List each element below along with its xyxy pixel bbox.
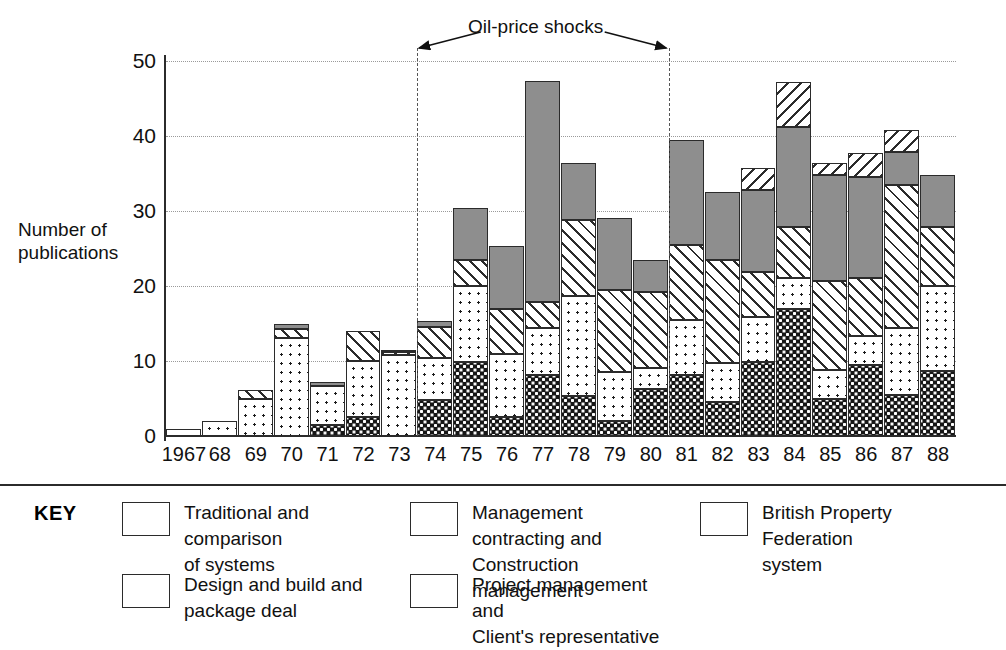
shock-line-right <box>669 48 670 436</box>
legend-swatch-solid-grey <box>410 574 458 608</box>
bar-segment-traditional <box>812 399 847 437</box>
bar-71 <box>310 61 345 436</box>
bar-segment-design <box>346 361 381 417</box>
y-tick-0: 0 <box>110 425 156 446</box>
bar-segment-design <box>453 286 488 362</box>
bar-segment-project <box>561 163 596 220</box>
bar-70 <box>274 61 309 436</box>
bar-segment-design <box>884 328 919 395</box>
bar-segment-design <box>381 355 416 436</box>
bar-segment-design <box>848 336 883 365</box>
bar-segment-project <box>920 175 955 227</box>
bar-segment-mgmt <box>525 302 560 328</box>
bar-segment-design <box>920 286 955 371</box>
bar-segment-mgmt <box>597 290 632 373</box>
bar-1967 <box>166 61 201 436</box>
bar-83 <box>741 61 776 436</box>
bar-72 <box>346 61 381 436</box>
bar-segment-mgmt <box>381 352 416 355</box>
bar-segment-project <box>525 81 560 302</box>
y-axis-title: Number of publications <box>18 218 158 264</box>
bar-84 <box>776 61 811 436</box>
bar-80 <box>633 61 668 436</box>
bar-87 <box>884 61 919 436</box>
bar-segment-project <box>417 321 452 327</box>
bar-segment-mgmt <box>238 390 273 399</box>
bar-segment-bpf <box>741 168 776 190</box>
bar-segment-mgmt <box>741 272 776 317</box>
bar-segment-traditional <box>920 371 955 436</box>
bar-segment-traditional <box>741 362 776 436</box>
bar-segment-traditional <box>884 395 919 436</box>
bar-segment-traditional <box>669 375 704 437</box>
bar-segment-traditional <box>346 417 381 436</box>
bar-69 <box>238 61 273 436</box>
bar-segment-project <box>741 190 776 272</box>
bar-81 <box>669 61 704 436</box>
bar-86 <box>848 61 883 436</box>
bar-segment-bpf <box>884 130 919 152</box>
bar-segment-design <box>202 421 237 436</box>
bar-segment-mgmt <box>417 327 452 359</box>
bar-segment-design <box>633 368 668 389</box>
bar-segment-bpf <box>776 82 811 127</box>
bar-segment-project <box>489 246 524 309</box>
bar-segment-design <box>166 429 201 437</box>
bar-segment-project <box>310 382 345 386</box>
bar-segment-design <box>561 296 596 397</box>
bar-segment-mgmt <box>561 220 596 296</box>
bar-segment-mgmt <box>920 227 955 286</box>
bar-segment-design <box>776 278 811 309</box>
bar-segment-project <box>884 152 919 185</box>
legend-swatch-light-dotted <box>122 574 170 608</box>
bar-segment-project <box>669 140 704 245</box>
bar-segment-project <box>633 260 668 292</box>
y-tick-40: 40 <box>110 125 156 146</box>
bar-segment-traditional <box>776 309 811 437</box>
bar-segment-mgmt <box>274 329 309 338</box>
bar-segment-design <box>669 320 704 375</box>
bar-segment-traditional <box>561 396 596 436</box>
bar-segment-project <box>597 218 632 290</box>
bar-segment-mgmt <box>848 278 883 337</box>
plot-bars <box>166 61 956 436</box>
legend-swatch-dark-dotted <box>122 502 170 536</box>
bar-segment-project <box>274 324 309 329</box>
oil-price-shocks-arrows <box>407 8 678 54</box>
bar-segment-traditional <box>417 400 452 436</box>
bar-segment-mgmt <box>633 292 668 368</box>
bar-segment-traditional <box>848 365 883 436</box>
bar-segment-mgmt <box>705 260 740 364</box>
bar-segment-design <box>417 358 452 400</box>
bar-segment-traditional <box>633 389 668 436</box>
bar-segment-traditional <box>489 417 524 436</box>
bar-segment-design <box>705 363 740 401</box>
y-tick-20: 20 <box>110 275 156 296</box>
bar-segment-project <box>812 175 847 281</box>
bar-segment-design <box>310 386 345 425</box>
legend-label: Project management and Client's represen… <box>472 572 680 650</box>
bar-79 <box>597 61 632 436</box>
chart-area: Number of publications 01020304050 19676… <box>0 0 1006 480</box>
bar-segment-project <box>381 350 416 352</box>
bar-segment-design <box>741 317 776 362</box>
bar-77 <box>525 61 560 436</box>
bar-segment-design <box>489 354 524 418</box>
legend-label: Traditional and comparison of systems <box>184 500 392 578</box>
bar-segment-design <box>274 338 309 436</box>
legend-label: British Property Federation system <box>762 500 970 578</box>
bar-segment-mgmt <box>884 185 919 328</box>
bar-segment-traditional <box>597 421 632 436</box>
x-tick-88: 88 <box>908 443 968 465</box>
bar-segment-traditional <box>453 362 488 436</box>
legend-swatch-forward-hatch <box>410 502 458 536</box>
bar-segment-mgmt <box>776 227 811 278</box>
bar-segment-project <box>848 177 883 278</box>
legend: KEY Traditional and comparison of system… <box>0 484 1006 640</box>
bar-68 <box>202 61 237 436</box>
bar-85 <box>812 61 847 436</box>
legend-label: Design and build and package deal <box>184 572 363 624</box>
bar-segment-mgmt <box>669 245 704 320</box>
legend-key-label: KEY <box>34 502 77 525</box>
bar-segment-traditional <box>705 402 740 437</box>
